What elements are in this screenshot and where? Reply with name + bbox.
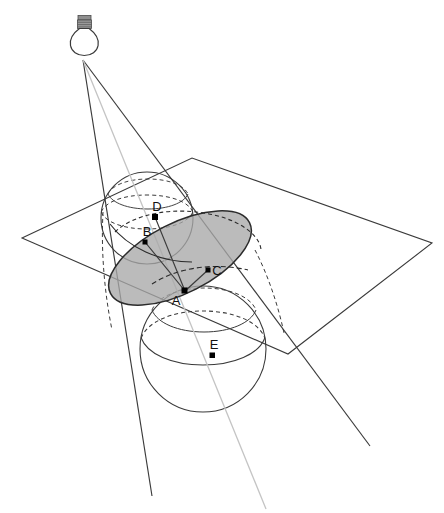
point-D-marker [152, 214, 158, 220]
light-bulb-icon [70, 16, 98, 56]
point-E-label: E [210, 337, 219, 352]
cone-hidden-edge-left [102, 212, 112, 330]
point-B-marker [143, 240, 148, 245]
point-A-label: A [172, 293, 181, 308]
point-B-label: B [143, 224, 152, 239]
point-C-label: C [212, 263, 221, 278]
point-D-label: D [152, 199, 161, 214]
geometry-diagram: A B C D E [0, 0, 444, 513]
figure-canvas: A B C D E [0, 0, 444, 513]
point-E-marker [210, 353, 216, 359]
point-A-marker [182, 288, 188, 294]
lower-dandelin-sphere [140, 286, 266, 412]
point-C-marker [206, 268, 211, 273]
